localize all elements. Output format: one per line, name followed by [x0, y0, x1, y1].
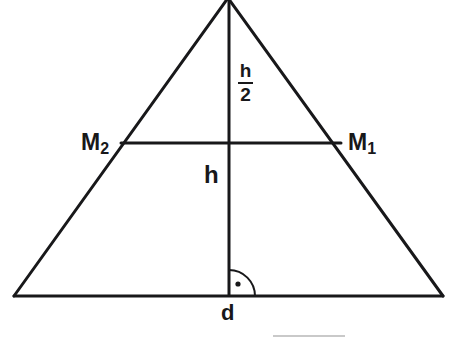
- label-base-length: d: [221, 302, 234, 324]
- label-m2-base: M: [81, 129, 100, 155]
- label-m1-base: M: [348, 129, 367, 155]
- triangle-left-side: [14, 0, 228, 296]
- label-midpoint-m1: M1: [348, 131, 376, 157]
- geometry-diagram-canvas: M2 M1 h 2 h d: [0, 0, 452, 341]
- label-half-height-fraction: h 2: [238, 61, 253, 105]
- half-height-denominator: 2: [240, 85, 251, 105]
- label-midpoint-m2: M2: [81, 131, 109, 157]
- right-angle-arc-icon: [229, 270, 255, 296]
- triangle-figure: [0, 0, 452, 341]
- label-height: h: [204, 163, 219, 187]
- half-height-numerator: h: [240, 61, 252, 81]
- right-angle-dot-icon: [235, 281, 240, 286]
- label-m2-subscript: 2: [100, 140, 109, 157]
- label-m1-subscript: 1: [367, 140, 376, 157]
- triangle-right-side: [228, 0, 443, 296]
